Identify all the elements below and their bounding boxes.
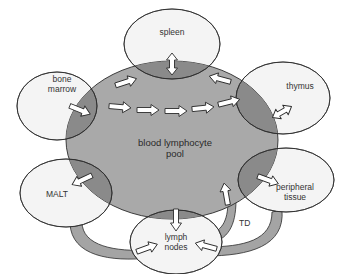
peripheral-tissue-label-line1: peripheral <box>276 182 314 192</box>
lymph-nodes-label-line1: lymph <box>165 232 188 242</box>
thymus-label: thymus <box>286 81 313 91</box>
td-pathway-label: TD <box>239 218 250 228</box>
peripheral-tissue-label-line2: tissue <box>284 192 306 202</box>
bone-marrow-label-line1: bone <box>53 74 72 84</box>
pool-label-line1: blood lymphocyte <box>138 137 212 148</box>
lymphocyte-recirculation-diagram: spleen bone marrow thymus blood lymphocy… <box>0 0 344 274</box>
lymph-nodes-label-line2: nodes <box>164 242 187 252</box>
bone-marrow-label-line2: marrow <box>48 84 77 94</box>
pool-label-line2: pool <box>166 148 184 159</box>
malt-label: MALT <box>46 189 68 199</box>
spleen-label: spleen <box>159 27 184 37</box>
